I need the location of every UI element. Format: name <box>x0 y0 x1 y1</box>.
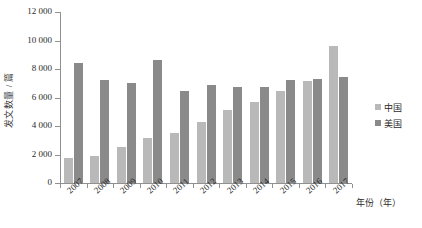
x-tick-mark <box>60 184 61 188</box>
legend-swatch-icon <box>375 104 381 110</box>
bar-美国-2017 <box>339 77 348 183</box>
legend-item-中国[interactable]: 中国 <box>375 99 402 115</box>
x-tick-mark <box>219 184 220 188</box>
bar-中国-2016 <box>303 81 312 183</box>
bar-美国-2010 <box>153 60 162 183</box>
y-tick-label: 8 000 <box>0 63 52 73</box>
bar-美国-2011 <box>180 91 189 183</box>
y-tick-label: 6 000 <box>0 92 52 102</box>
bar-美国-2007 <box>74 63 83 183</box>
x-tick-mark <box>246 184 247 188</box>
bar-中国-2012 <box>197 122 206 183</box>
bar-中国-2014 <box>250 102 259 183</box>
x-tick-mark <box>166 184 167 188</box>
y-tick-label: 0 <box>0 177 52 187</box>
legend-label: 美国 <box>384 117 402 130</box>
x-tick-mark <box>325 184 326 188</box>
legend-swatch-icon <box>375 120 381 126</box>
x-tick-mark <box>113 184 114 188</box>
bar-中国-2008 <box>90 156 99 183</box>
chart-legend: 中国美国 <box>375 99 402 131</box>
y-tick-label: 10 000 <box>0 35 52 45</box>
bar-美国-2016 <box>313 79 322 183</box>
bar-美国-2015 <box>286 80 295 183</box>
bar-中国-2010 <box>143 138 152 183</box>
bar-中国-2013 <box>223 110 232 183</box>
legend-label: 中国 <box>384 101 402 114</box>
bar-美国-2013 <box>233 87 242 183</box>
x-tick-mark <box>272 184 273 188</box>
bar-美国-2012 <box>207 85 216 183</box>
x-tick-mark <box>193 184 194 188</box>
legend-item-美国[interactable]: 美国 <box>375 115 402 131</box>
bar-中国-2011 <box>170 133 179 183</box>
bar-美国-2014 <box>260 87 269 183</box>
bar-中国-2015 <box>276 91 285 183</box>
x-tick-mark <box>352 184 353 188</box>
y-tick-label: 12 000 <box>0 6 52 16</box>
y-tick-label: 2 000 <box>0 149 52 159</box>
x-tick-mark <box>87 184 88 188</box>
bar-中国-2009 <box>117 147 126 183</box>
bar-美国-2008 <box>100 80 109 183</box>
bar-中国-2007 <box>64 158 73 183</box>
x-tick-mark <box>140 184 141 188</box>
plot-area <box>60 12 352 183</box>
y-tick-label: 4 000 <box>0 120 52 130</box>
bar-中国-2017 <box>329 46 338 184</box>
x-tick-mark <box>299 184 300 188</box>
bar-美国-2009 <box>127 83 136 183</box>
x-axis-title: 年份（年） <box>356 196 401 209</box>
bar-chart-figure: 发文数量 / 篇 02 0004 0006 0008 00010 00012 0… <box>0 0 422 228</box>
